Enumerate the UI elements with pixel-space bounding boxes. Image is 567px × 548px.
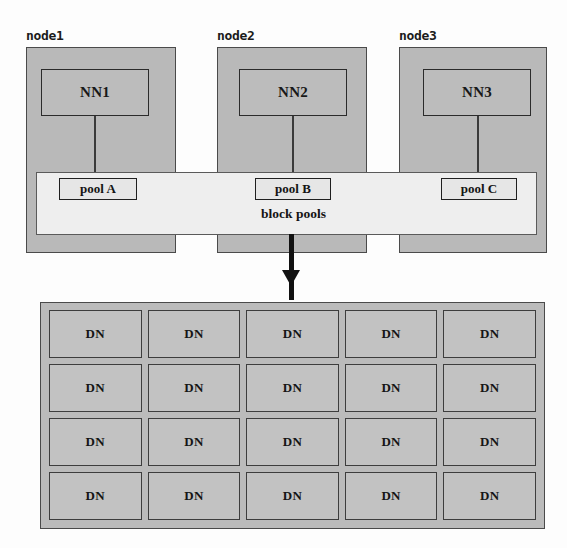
datanode-cell: DN (49, 418, 142, 466)
connector-line-3 (477, 116, 479, 178)
datanode-label: DN (381, 434, 400, 450)
block-pools-caption: block pools (236, 206, 351, 222)
pool-box-b: pool B (255, 178, 331, 200)
datanode-label: DN (184, 380, 203, 396)
datanode-cell: DN (49, 310, 142, 358)
pool-box-c: pool C (441, 178, 517, 200)
datanode-label: DN (283, 488, 302, 504)
federation-diagram: node1 NN1 node2 NN2 node3 NN3 pool A poo… (0, 0, 567, 548)
datanode-cell: DN (49, 472, 142, 520)
datanode-cell: DN (443, 472, 536, 520)
node-label-1: node1 (26, 28, 64, 43)
datanode-label: DN (283, 326, 302, 342)
connector-line-2 (292, 116, 294, 178)
pool-label-b: pool B (275, 181, 311, 197)
datanode-cell: DN (148, 472, 241, 520)
datanode-label: DN (480, 326, 499, 342)
datanode-label: DN (86, 488, 105, 504)
datanode-label: DN (86, 434, 105, 450)
namenode-label-3: NN3 (462, 84, 492, 101)
datanode-label: DN (381, 488, 400, 504)
datanode-cell: DN (345, 364, 438, 412)
datanode-label: DN (86, 326, 105, 342)
pool-label-c: pool C (461, 181, 497, 197)
namenode-box-1: NN1 (41, 69, 149, 116)
node-label-2: node2 (217, 28, 255, 43)
datanode-label: DN (381, 326, 400, 342)
datanode-cell: DN (49, 364, 142, 412)
datanode-label: DN (283, 380, 302, 396)
datanode-cell: DN (443, 364, 536, 412)
pool-label-a: pool A (80, 181, 116, 197)
datanode-cell: DN (345, 472, 438, 520)
datanode-label: DN (480, 488, 499, 504)
pool-box-a: pool A (59, 178, 137, 200)
datanode-label: DN (480, 434, 499, 450)
datanode-cell: DN (246, 418, 339, 466)
datanode-cell: DN (148, 310, 241, 358)
datanode-cell: DN (345, 310, 438, 358)
datanode-cell: DN (345, 418, 438, 466)
connector-line-1 (94, 116, 96, 178)
namenode-box-2: NN2 (239, 69, 347, 116)
namenode-box-3: NN3 (423, 69, 531, 116)
datanode-cell: DN (148, 418, 241, 466)
datanode-label: DN (283, 434, 302, 450)
scan-artifact (150, 265, 154, 281)
datanode-cluster: DNDNDNDNDNDNDNDNDNDNDNDNDNDNDNDNDNDNDNDN (40, 302, 545, 529)
datanode-cell: DN (246, 364, 339, 412)
datanode-cell: DN (246, 310, 339, 358)
datanode-label: DN (184, 434, 203, 450)
datanode-cell: DN (246, 472, 339, 520)
datanode-label: DN (184, 326, 203, 342)
block-pools-to-datanodes-arrowhead (282, 270, 300, 286)
datanode-grid: DNDNDNDNDNDNDNDNDNDNDNDNDNDNDNDNDNDNDNDN (49, 310, 536, 520)
namenode-label-1: NN1 (80, 84, 110, 101)
datanode-cell: DN (148, 364, 241, 412)
datanode-label: DN (86, 380, 105, 396)
datanode-cell: DN (443, 418, 536, 466)
datanode-label: DN (184, 488, 203, 504)
datanode-cell: DN (443, 310, 536, 358)
node-label-3: node3 (399, 28, 437, 43)
block-pools-to-datanodes-shaft (289, 234, 294, 300)
namenode-label-2: NN2 (278, 84, 308, 101)
datanode-label: DN (381, 380, 400, 396)
datanode-label: DN (480, 380, 499, 396)
